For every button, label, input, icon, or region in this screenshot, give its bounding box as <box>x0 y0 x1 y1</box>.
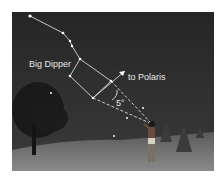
angle-label: 5° <box>116 98 125 108</box>
big-dipper-label: Big Dipper <box>29 59 71 69</box>
to-polaris-label: to Polaris <box>128 72 166 82</box>
big-dipper-diagram: Big Dipper to Polaris 5° <box>12 12 214 171</box>
